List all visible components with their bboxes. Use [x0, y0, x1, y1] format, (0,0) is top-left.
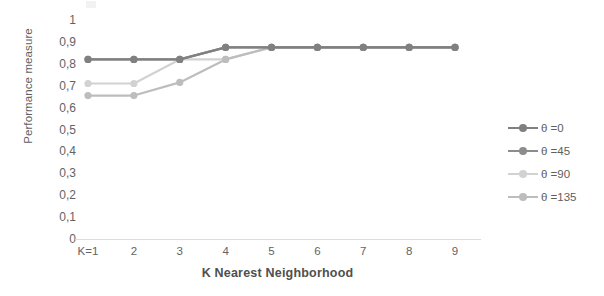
data-point: [451, 44, 458, 51]
legend-marker-icon: [508, 145, 538, 157]
data-point: [130, 80, 137, 87]
y-axis-tick-label: 0,3: [44, 167, 76, 179]
data-point: [130, 56, 137, 63]
y-axis-tick-labels: 10,90,80,70,60,50,40,30,20,10: [44, 14, 76, 246]
legend-item[interactable]: θ =0: [508, 116, 600, 139]
y-axis-tick-label: 0,5: [44, 124, 76, 136]
legend-marker-icon: [508, 191, 538, 203]
legend-item[interactable]: θ =135: [508, 185, 600, 208]
legend-item-label: θ =45: [541, 145, 570, 157]
y-axis-tick-label: 0,2: [44, 189, 76, 201]
data-point: [176, 56, 183, 63]
data-point: [360, 44, 367, 51]
x-axis-tick-label: 4: [222, 245, 228, 257]
legend-marker-icon: [508, 168, 538, 180]
series-0: [84, 44, 458, 63]
legend-item[interactable]: θ =90: [508, 162, 600, 185]
legend-item[interactable]: θ =45: [508, 139, 600, 162]
legend-item-label: θ =0: [541, 122, 564, 134]
x-axis-title: K Nearest Neighborhood: [75, 266, 480, 280]
x-axis-tick-label: 3: [177, 245, 183, 257]
series-line: [88, 47, 455, 95]
x-axis-tick-label: 9: [452, 245, 458, 257]
data-point: [222, 56, 229, 63]
y-axis-tick-label: 0,1: [44, 211, 76, 223]
y-axis-title: Performance measure: [22, 0, 34, 176]
legend-item-label: θ =135: [541, 191, 577, 203]
series-3: [84, 44, 458, 99]
y-axis-tick-label: 0,4: [44, 145, 76, 157]
y-axis-tick-label: 0,7: [44, 80, 76, 92]
y-axis-tick-label: 0,9: [44, 36, 76, 48]
x-axis-tick-label: 6: [314, 245, 320, 257]
series-layer: [75, 20, 480, 239]
top-edge-artifact: [86, 1, 96, 8]
data-point: [406, 44, 413, 51]
series-line: [88, 47, 455, 83]
x-axis-tick-labels: K=123456789: [75, 245, 480, 261]
data-point: [130, 92, 137, 99]
plot-area: [75, 20, 480, 239]
data-point: [84, 92, 91, 99]
x-axis-tick-label: 8: [406, 245, 412, 257]
data-point: [176, 79, 183, 86]
x-axis-tick-label: 5: [268, 245, 274, 257]
x-axis-line: [75, 239, 481, 240]
y-axis-tick-label: 0: [44, 233, 76, 245]
data-point: [268, 44, 275, 51]
y-axis-tick-label: 0,8: [44, 58, 76, 70]
legend-marker-icon: [508, 122, 538, 134]
x-axis-tick-label: K=1: [78, 245, 99, 257]
data-point: [222, 44, 229, 51]
y-axis-tick-label: 1: [44, 14, 76, 26]
data-point: [84, 80, 91, 87]
chart-legend: θ =0θ =45θ =90θ =135: [508, 116, 600, 208]
legend-item-label: θ =90: [541, 168, 570, 180]
x-axis-tick-label: 7: [360, 245, 366, 257]
x-axis-tick-label: 2: [131, 245, 137, 257]
line-chart: Performance measure 10,90,80,70,60,50,40…: [0, 0, 604, 296]
data-point: [314, 44, 321, 51]
data-point: [84, 56, 91, 63]
y-axis-tick-label: 0,6: [44, 102, 76, 114]
